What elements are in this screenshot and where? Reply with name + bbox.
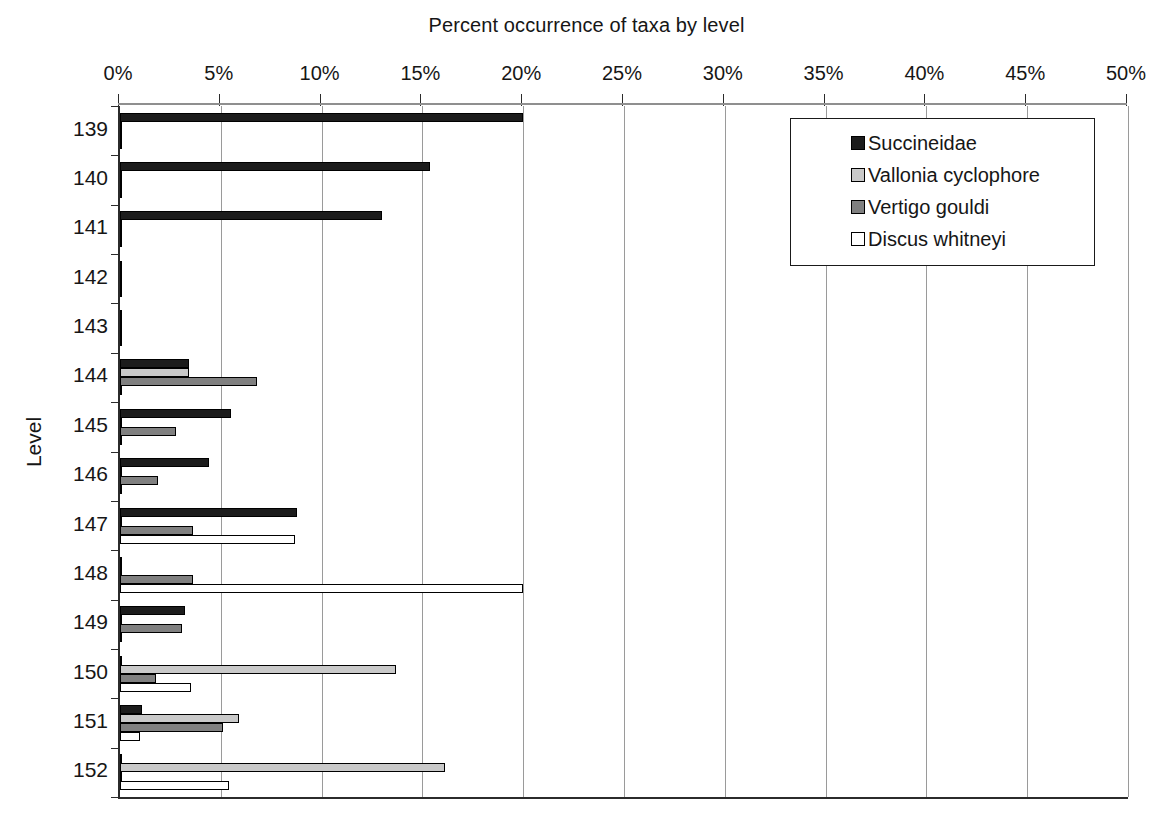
y-tick-label: 141 [38,215,108,239]
gridline [725,106,726,797]
bar [120,633,122,642]
bar [120,211,382,220]
bar [120,409,231,418]
bar [120,427,176,436]
bar [120,162,430,171]
bar [120,624,182,633]
bar [120,458,209,467]
bar [120,238,122,247]
bar [120,754,122,763]
legend-swatch-icon [851,200,865,214]
bar [120,436,122,445]
bar [120,131,122,140]
bar [120,606,185,615]
bar [120,270,122,279]
bar [120,485,122,494]
y-tick-label: 150 [38,660,108,684]
x-tick-label: 25% [587,62,657,85]
legend-item[interactable]: Discus whitneyi [791,223,1094,255]
bar [120,557,122,566]
bar [120,368,189,377]
bar [120,113,523,122]
bar [120,476,158,485]
gridline [221,106,222,797]
bar [120,261,122,270]
bar [120,656,122,665]
y-tick-label: 145 [38,413,108,437]
bar [120,705,142,714]
y-tick-label: 144 [38,363,108,387]
bar [120,359,189,368]
bar [120,508,297,517]
bar [120,122,122,131]
bar-chart: Percent occurrence of taxa by level Leve… [0,0,1173,831]
bar [120,220,122,229]
bar [120,517,122,526]
bar [120,467,122,476]
bar [120,140,122,149]
x-tick-label: 35% [789,62,859,85]
y-tick-label: 149 [38,610,108,634]
bar [120,723,223,732]
y-tick-label: 147 [38,512,108,536]
bar [120,781,229,790]
y-tick-label: 146 [38,462,108,486]
bar [120,714,239,723]
bar [120,229,122,238]
gridline [624,106,625,797]
legend-label: Discus whitneyi [868,229,1006,249]
bar [120,189,122,198]
bar [120,535,295,544]
x-tick-label: 40% [889,62,959,85]
x-tick-label: 15% [385,62,455,85]
legend: SuccineidaeVallonia cyclophoreVertigo go… [790,118,1095,266]
bar [120,566,122,575]
y-tick-label: 143 [38,314,108,338]
bar [120,674,156,683]
bar [120,377,257,386]
legend-label: Vallonia cyclophore [868,165,1040,185]
legend-label: Succineidae [868,133,977,153]
legend-swatch-icon [851,136,865,150]
bar [120,180,122,189]
x-tick-label: 50% [1091,62,1161,85]
legend-item[interactable]: Succineidae [791,127,1094,159]
bar [120,310,122,319]
y-tick-label: 148 [38,561,108,585]
bar [120,584,523,593]
x-axis-line [118,103,1127,105]
bar [120,526,193,535]
x-tick-label: 30% [688,62,758,85]
bar [120,772,122,781]
bar [120,732,140,741]
y-tick-label: 152 [38,758,108,782]
bar [120,575,193,584]
bar [120,418,122,427]
x-tick-label: 10% [285,62,355,85]
bar [120,171,122,180]
bar [120,615,122,624]
bar [120,386,122,395]
bar [120,288,122,297]
x-tick-label: 20% [486,62,556,85]
legend-label: Vertigo gouldi [868,197,989,217]
y-tick-label: 142 [38,265,108,289]
legend-swatch-icon [851,168,865,182]
y-tick-label: 151 [38,709,108,733]
gridline [523,106,524,797]
bar [120,665,396,674]
bar [120,319,122,328]
bar [120,279,122,288]
x-tick-label: 5% [184,62,254,85]
bar [120,683,191,692]
x-tick-label: 45% [990,62,1060,85]
gridline [322,106,323,797]
chart-title: Percent occurrence of taxa by level [0,14,1173,37]
gridline [422,106,423,797]
bar [120,328,122,337]
legend-item[interactable]: Vallonia cyclophore [791,159,1094,191]
y-tick-label: 140 [38,166,108,190]
bar [120,337,122,346]
legend-item[interactable]: Vertigo gouldi [791,191,1094,223]
legend-swatch-icon [851,232,865,246]
